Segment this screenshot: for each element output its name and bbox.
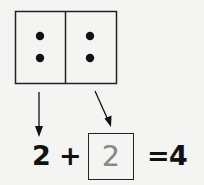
dot <box>36 32 44 40</box>
dot <box>86 32 94 40</box>
plus-operator: + <box>59 142 82 169</box>
sum-value: 4 <box>169 142 188 169</box>
part-box <box>16 12 117 84</box>
answer-box[interactable]: 2 <box>88 133 134 180</box>
equals-sign: = <box>147 142 170 169</box>
right-cell-dots <box>86 32 94 62</box>
dot <box>36 54 44 62</box>
right-arrow-icon <box>95 91 112 127</box>
left-arrow-icon <box>35 92 43 137</box>
left-cell-dots <box>36 32 44 62</box>
answer-value: 2 <box>102 143 120 171</box>
dot <box>86 54 94 62</box>
addend-one: 2 <box>32 142 51 169</box>
